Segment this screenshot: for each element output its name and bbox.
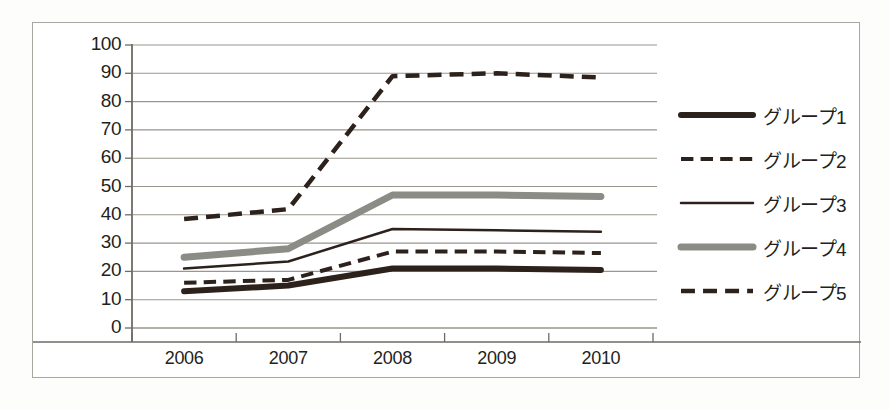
y-tick-label-90: 90 [66, 61, 121, 83]
legend-label-4: グループ4 [763, 234, 846, 261]
y-tick-label-0: 0 [66, 316, 121, 338]
x-tick-label-2010: 2010 [549, 348, 653, 369]
y-tick-label-30: 30 [66, 231, 121, 253]
y-tick-label-70: 70 [66, 118, 121, 140]
legend-label-1: グループ1 [763, 102, 846, 129]
x-tick-label-2006: 2006 [132, 348, 236, 369]
x-tick-label-2008: 2008 [340, 348, 444, 369]
y-tick-label-50: 50 [66, 175, 121, 197]
legend-label-2: グループ2 [763, 146, 846, 173]
y-tick-label-20: 20 [66, 259, 121, 281]
y-tick-label-80: 80 [66, 90, 121, 112]
line-chart-plot [33, 23, 861, 379]
series-line-4 [184, 195, 601, 257]
legend-label-5: グループ5 [763, 278, 846, 305]
chart-frame: 1009080706050403020100200620072008200920… [32, 22, 860, 378]
chart-figure: 1009080706050403020100200620072008200920… [0, 0, 890, 410]
legend-label-3: グループ3 [763, 190, 846, 217]
y-tick-label-10: 10 [66, 288, 121, 310]
y-tick-label-100: 100 [66, 33, 121, 55]
y-tick-label-40: 40 [66, 203, 121, 225]
x-tick-label-2007: 2007 [236, 348, 340, 369]
x-tick-label-2009: 2009 [445, 348, 549, 369]
y-tick-label-60: 60 [66, 146, 121, 168]
